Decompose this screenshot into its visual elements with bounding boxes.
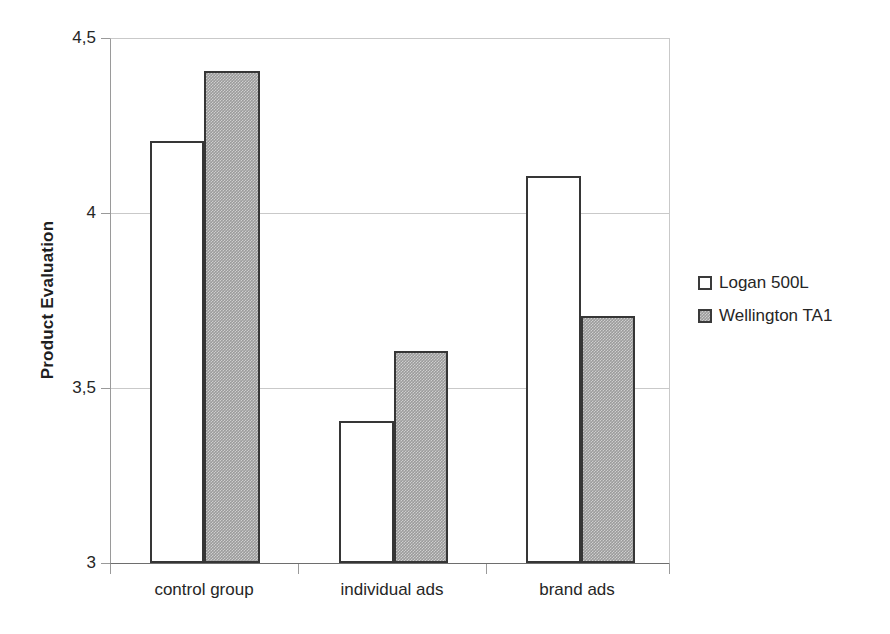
x-tick-mark-end bbox=[669, 564, 670, 574]
x-axis-labels: control group individual ads brand ads bbox=[110, 580, 670, 610]
y-tick-mark-3 bbox=[101, 563, 110, 564]
x-tick-mark-2 bbox=[486, 564, 487, 574]
bar-logan-500l-control-group bbox=[150, 141, 204, 563]
y-tick-label-3: 3 bbox=[87, 553, 96, 573]
y-tick-label-4-5: 4,5 bbox=[72, 28, 96, 48]
y-axis-ticks: 4,5 4 3,5 3 bbox=[0, 0, 110, 634]
gray-square-icon bbox=[698, 309, 712, 323]
legend-item-logan-500l: Logan 500L bbox=[698, 266, 884, 299]
x-tick-label-control-group: control group bbox=[154, 580, 253, 600]
bar-chart: Product Evaluation 4,5 4 3,5 3 control g… bbox=[0, 0, 890, 634]
y-tick-mark-3-5 bbox=[101, 388, 110, 389]
legend: Logan 500L Wellington TA1 bbox=[698, 266, 884, 332]
x-axis-ticks bbox=[110, 564, 670, 576]
bar-logan-500l-individual-ads bbox=[339, 421, 394, 563]
y-tick-mark-4-5 bbox=[101, 38, 110, 39]
x-tick-label-individual-ads: individual ads bbox=[340, 580, 443, 600]
x-tick-mark-1 bbox=[298, 564, 299, 574]
y-tick-label-3-5: 3,5 bbox=[72, 378, 96, 398]
legend-label-logan-500l: Logan 500L bbox=[719, 273, 809, 293]
white-square-icon bbox=[698, 276, 712, 290]
bar-logan-500l-brand-ads bbox=[526, 176, 581, 563]
bar-wellington-ta1-brand-ads bbox=[581, 316, 635, 563]
bar-wellington-ta1-control-group bbox=[204, 71, 260, 563]
y-tick-mark-4 bbox=[101, 213, 110, 214]
x-tick-mark-start bbox=[110, 564, 111, 574]
y-tick-label-4: 4 bbox=[87, 203, 96, 223]
legend-item-wellington-ta1: Wellington TA1 bbox=[698, 299, 884, 332]
plot-area bbox=[110, 38, 670, 564]
legend-label-wellington-ta1: Wellington TA1 bbox=[719, 306, 832, 326]
bar-wellington-ta1-individual-ads bbox=[394, 351, 448, 563]
x-tick-label-brand-ads: brand ads bbox=[539, 580, 615, 600]
